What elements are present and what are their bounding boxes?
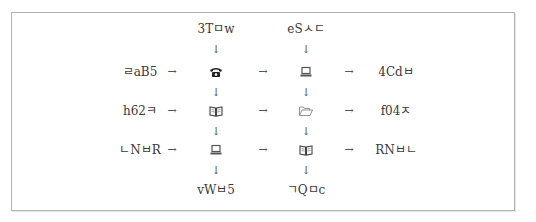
bottom-label-col2: ㄱQㅁc [287,183,326,197]
open-folder-icon [299,105,314,117]
laptop-icon [299,66,313,78]
arrow-right: → [167,65,176,79]
arrow-right: → [258,104,267,118]
right-label-row1: 4Cdㅂ [378,65,414,79]
arrow-down: ↓ [301,86,310,100]
open-book-icon [209,105,223,117]
open-book-icon [299,144,313,156]
right-label-row3: RNㅂㄴ [375,143,417,157]
arrow-right: → [167,143,176,157]
bottom-label-col1: vWㅂ5 [197,183,235,197]
left-label-row3: ㄴNㅂR [119,143,161,157]
arrow-down: ↓ [211,43,220,57]
arrow-right: → [167,104,176,118]
top-label-col2: eSㅅㄷ [287,22,324,36]
arrow-right: → [258,65,267,79]
right-label-row2: f04ㅈ [381,104,412,118]
arrow-right: → [344,104,353,118]
top-label-col1: 3Tㅁw [198,22,235,36]
left-label-row1: ㄹaB5 [123,65,158,79]
left-label-row2: h62ㅋ [123,104,157,118]
arrow-right: → [344,65,353,79]
arrow-down: ↓ [211,164,220,178]
arrow-right: → [344,143,353,157]
arrow-down: ↓ [301,125,310,139]
arrow-down: ↓ [211,125,220,139]
arrow-right: → [258,143,267,157]
arrow-down: ↓ [301,43,310,57]
telephone-icon [209,66,223,78]
laptop-icon [209,144,223,156]
arrow-down: ↓ [301,164,310,178]
arrow-down: ↓ [211,86,220,100]
